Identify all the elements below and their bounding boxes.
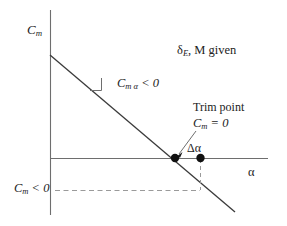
slope-annotation: Cm α < 0 xyxy=(117,77,159,91)
cm-negative-relation: < 0 xyxy=(28,181,49,195)
trim-value-label: Cm = 0 xyxy=(193,117,228,131)
slope-sub: m α xyxy=(125,81,138,91)
trim-point-marker xyxy=(171,154,179,162)
trim-point-label: Trim point xyxy=(193,101,244,113)
cm-negative-label: Cm < 0 xyxy=(14,182,49,196)
slope-triangle xyxy=(90,78,102,91)
y-axis-label: Cm xyxy=(27,23,42,38)
x-axis-label: α xyxy=(248,166,255,179)
cm-alpha-stability-figure: Cm δE, M given Cm α < 0 Trim point Cm = … xyxy=(0,0,287,226)
slope-relation: < 0 xyxy=(138,76,159,90)
condition-suffix: , M given xyxy=(188,43,236,57)
disturbed-point-marker xyxy=(196,154,204,162)
delta-alpha-label: Δα xyxy=(187,142,201,154)
condition-note: δE, M given xyxy=(177,44,236,58)
trim-value-relation: = 0 xyxy=(207,116,228,130)
y-axis-label-sub: m xyxy=(36,28,42,38)
y-axis-label-base: C xyxy=(27,22,36,37)
